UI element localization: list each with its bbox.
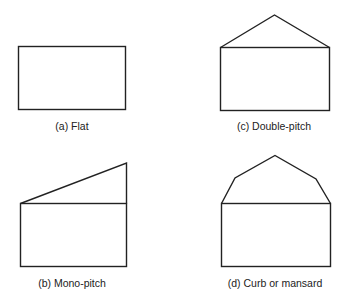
figure-mono-pitch: (b) Mono-pitch bbox=[21, 163, 127, 289]
flat-building-outline bbox=[19, 47, 126, 110]
mono-pitch-roof bbox=[21, 163, 127, 204]
mansard-building-outline bbox=[222, 204, 331, 267]
flat-label: (a) Flat bbox=[55, 120, 88, 132]
roof-types-diagram: (a) Flat (c) Double-pitch (b) Mono-pitch… bbox=[0, 0, 348, 306]
mono-pitch-label: (b) Mono-pitch bbox=[38, 277, 106, 289]
double-pitch-roof bbox=[221, 15, 330, 48]
mansard-label: (d) Curb or mansard bbox=[228, 277, 323, 289]
figure-double-pitch: (c) Double-pitch bbox=[221, 15, 330, 132]
double-pitch-building-outline bbox=[221, 48, 330, 111]
figure-flat: (a) Flat bbox=[19, 47, 126, 133]
double-pitch-label: (c) Double-pitch bbox=[237, 120, 311, 132]
figure-curb-mansard: (d) Curb or mansard bbox=[222, 156, 331, 290]
mansard-roof bbox=[222, 156, 331, 204]
mono-pitch-building-outline bbox=[21, 204, 127, 267]
